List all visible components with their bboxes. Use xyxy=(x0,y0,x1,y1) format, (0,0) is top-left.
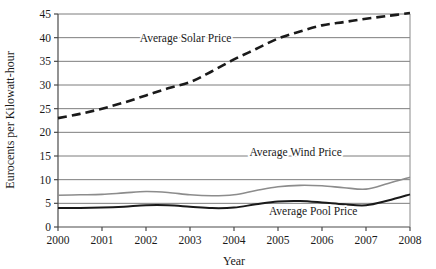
y-tick-label: 25 xyxy=(40,103,52,115)
series-annotation-label: Average Solar Price xyxy=(140,32,232,45)
y-tick-label: 0 xyxy=(45,221,51,233)
y-axis-title: Eurocents per Kilowatt-hour xyxy=(3,51,17,188)
gridlines-group xyxy=(58,14,410,203)
y-tick-label: 30 xyxy=(40,79,52,91)
x-tick-label: 2004 xyxy=(223,234,246,246)
series-annotation-label: Average Wind Price xyxy=(249,146,341,159)
x-tick-label: 2000 xyxy=(47,234,70,246)
data-series-group xyxy=(58,13,410,208)
x-tick-label: 2003 xyxy=(179,234,202,246)
y-tick-label: 35 xyxy=(40,55,52,67)
chart-container: 051015202530354045 200020012002200320042… xyxy=(0,0,436,269)
y-tick-label: 5 xyxy=(45,197,51,209)
x-tick-label: 2008 xyxy=(399,234,422,246)
y-tick-label: 20 xyxy=(40,126,52,138)
y-tick-label: 15 xyxy=(40,150,52,162)
x-tick-labels-group: 200020012002200320042005200620072008 xyxy=(47,234,422,246)
series-annotations-group: Average Solar PriceAverage Solar PriceAv… xyxy=(140,32,358,217)
series-annotation-label: Average Pool Price xyxy=(269,205,358,218)
x-tick-label: 2007 xyxy=(355,234,378,246)
axis-ticks-group xyxy=(54,14,410,231)
line-chart: 051015202530354045 200020012002200320042… xyxy=(0,0,436,269)
x-tick-label: 2006 xyxy=(311,234,334,246)
x-axis-title: Year xyxy=(223,254,245,268)
y-tick-labels-group: 051015202530354045 xyxy=(40,8,52,233)
series-line-average-solar-price xyxy=(58,13,410,118)
x-tick-label: 2005 xyxy=(267,234,290,246)
y-tick-label: 45 xyxy=(40,8,52,20)
y-tick-label: 40 xyxy=(40,32,52,44)
x-tick-label: 2001 xyxy=(91,234,114,246)
x-tick-label: 2002 xyxy=(135,234,158,246)
y-tick-label: 10 xyxy=(40,174,52,186)
